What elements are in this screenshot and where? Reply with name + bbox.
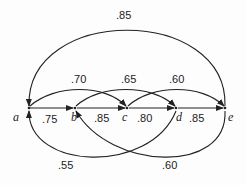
node-d: [175, 107, 178, 110]
node-e: [224, 107, 227, 110]
weight-b-d: .65: [121, 73, 136, 85]
weight-c-e: .60: [169, 73, 184, 85]
weight-e-a: .85: [116, 9, 131, 21]
weight-a-b: .75: [42, 113, 57, 125]
network-diagram: a b c d e .75 .85 .80 .85 .70 .65 .60 .8…: [0, 0, 247, 185]
edge-c-e: [128, 90, 224, 107]
edge-a-c: [30, 90, 126, 107]
node-label-e: e: [228, 110, 234, 124]
node-b: [74, 107, 77, 110]
node-label-a: a: [13, 110, 19, 124]
node-a: [28, 107, 31, 110]
weight-d-a: .55: [58, 159, 73, 171]
edge-e-a: [29, 30, 225, 106]
weight-a-c: .70: [71, 73, 86, 85]
weight-d-e: .85: [189, 112, 204, 124]
diagram-svg: a b c d e .75 .85 .80 .85 .70 .65 .60 .8…: [0, 0, 247, 185]
node-label-b: b: [71, 110, 77, 124]
weight-c-d: .80: [137, 112, 152, 124]
weight-e-b: .60: [162, 159, 177, 171]
weight-b-c: .85: [94, 112, 109, 124]
node-label-d: d: [176, 110, 183, 124]
node-c: [126, 107, 129, 110]
edge-b-d: [76, 90, 175, 107]
node-label-c: c: [122, 110, 128, 124]
